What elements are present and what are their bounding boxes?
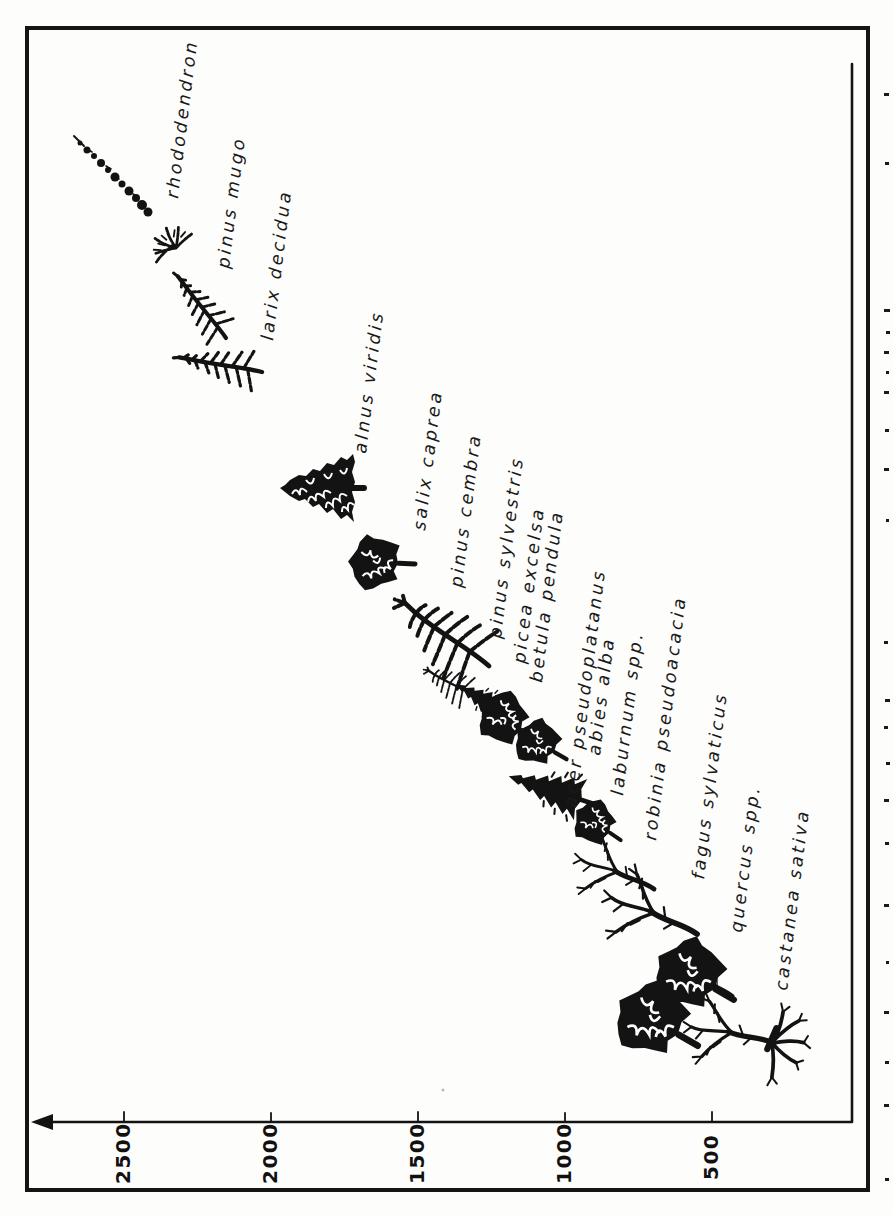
tree-larix-decidua-small (160, 261, 240, 349)
caption-cutoff-fragments (884, 93, 890, 1181)
scan-speck (442, 1089, 445, 1092)
axis-tick-2500: 2500 (111, 1122, 135, 1184)
axis-tick-1000: 1000 (552, 1122, 576, 1184)
scanned-page: rhododendron pinus mugo larix decidua al… (0, 0, 893, 1215)
axis-tick-500: 500 (699, 1134, 723, 1180)
tree-salix-caprea (347, 534, 416, 592)
axis-arrow-icon (31, 1114, 53, 1130)
tree-pinus-mugo (144, 218, 195, 262)
axis-tick-2000: 2000 (258, 1122, 282, 1184)
tree-alnus-viridis (280, 454, 364, 522)
figure-artwork (0, 0, 893, 1215)
altitude-axis (31, 64, 852, 1130)
tree-larix-decidua-large (170, 338, 265, 392)
tree-rhododendron (74, 136, 153, 217)
axis-tick-1500: 1500 (405, 1122, 429, 1184)
